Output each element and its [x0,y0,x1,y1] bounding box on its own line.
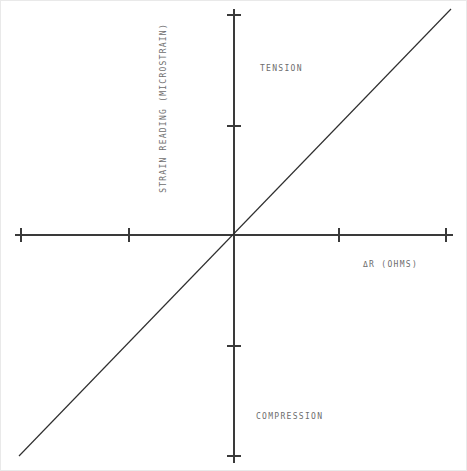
axes-group [15,9,453,463]
y-axis-label: STRAIN READING (MICROSTRAIN) [159,23,168,193]
tension-quadrant-label: TENSION [260,64,303,73]
strain-vs-resistance-figure: STRAIN READING (MICROSTRAIN) ΔR (OHMS) T… [0,0,467,471]
data-series-group [19,9,451,456]
x-axis-label: ΔR (OHMS) [363,260,418,269]
strain-response-line [19,9,451,456]
compression-quadrant-label: COMPRESSION [256,412,323,421]
plot-canvas [1,1,467,471]
